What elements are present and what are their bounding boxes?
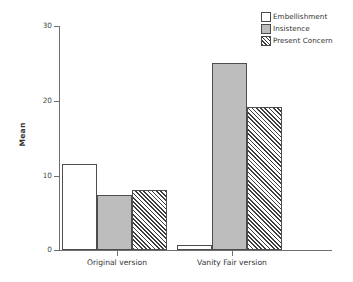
- legend-label: Insistence: [273, 23, 310, 34]
- legend-label: Present Concern: [273, 35, 333, 46]
- y-tick-label-10: 10: [26, 172, 52, 180]
- hatched-square-swatch: [261, 36, 271, 46]
- y-tick-mark-30: [54, 26, 60, 27]
- y-tick-label-30: 30: [26, 22, 52, 30]
- x-tick-mark-vanity-fair: [232, 251, 233, 256]
- legend-item-present-concern: Present Concern: [261, 35, 333, 46]
- bar-vanity-fair-present-concern: [247, 107, 282, 250]
- legend-item-embellishment: Embellishment: [261, 11, 333, 22]
- x-tick-label-vanity-fair: Vanity Fair version: [172, 258, 292, 268]
- y-tick-label-0: 0: [26, 246, 52, 254]
- legend-item-insistence: Insistence: [261, 23, 333, 34]
- y-tick-mark-20: [54, 101, 60, 102]
- bar-vanity-fair-embellishment: [177, 245, 212, 250]
- y-axis-line: [59, 26, 60, 251]
- gray-square-swatch: [261, 24, 271, 34]
- bar-chart: Embellishment Insistence Present Concern…: [0, 0, 353, 282]
- white-square-swatch: [261, 12, 271, 22]
- legend-label: Embellishment: [273, 11, 327, 22]
- bar-original-insistence: [97, 195, 132, 250]
- bar-original-embellishment: [62, 164, 97, 250]
- x-axis-line: [59, 250, 332, 251]
- x-tick-mark-original: [117, 251, 118, 256]
- bar-vanity-fair-insistence: [212, 63, 247, 250]
- y-tick-mark-10: [54, 176, 60, 177]
- y-axis-title: Mean: [18, 109, 27, 161]
- y-tick-label-20: 20: [26, 97, 52, 105]
- chart-legend: Embellishment Insistence Present Concern: [261, 11, 333, 46]
- bar-original-present-concern: [132, 190, 167, 251]
- x-tick-label-original: Original version: [62, 258, 172, 268]
